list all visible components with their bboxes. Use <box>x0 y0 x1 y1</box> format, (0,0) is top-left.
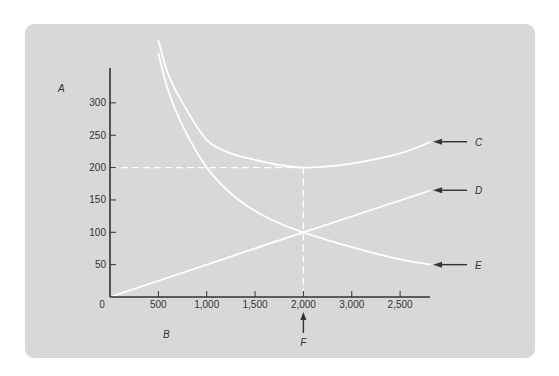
y-tick-label: 50 <box>95 259 107 270</box>
series-curves <box>110 40 431 297</box>
y-tick-label: 300 <box>89 97 106 108</box>
arrowhead-f <box>300 312 306 320</box>
label-d: D <box>475 185 482 196</box>
y-tick-label: 150 <box>89 194 106 205</box>
x-tick-label: 2,500 <box>388 299 413 310</box>
annotations: CDEF <box>300 137 483 348</box>
label-c: C <box>475 137 483 148</box>
curve-c <box>158 40 431 167</box>
label-e: E <box>475 260 482 271</box>
x-tick-label: 2,000 <box>291 299 316 310</box>
curve-e <box>158 53 431 265</box>
reference-lines <box>110 168 303 297</box>
curve-d <box>110 190 431 297</box>
chart: 501001502002503005001,0001,5002,0003,000… <box>0 0 559 376</box>
y-tick-label: 100 <box>89 227 106 238</box>
y-tick-label: 200 <box>89 162 106 173</box>
label-f: F <box>300 337 307 348</box>
x-tick-label: 3,000 <box>339 299 364 310</box>
arrowhead-e <box>433 262 442 268</box>
x-axis-label: B <box>163 329 170 340</box>
x-tick-label: 1,000 <box>194 299 219 310</box>
origin-label: 0 <box>99 299 105 310</box>
arrowhead-d <box>433 187 442 193</box>
x-tick-label: 1,500 <box>243 299 268 310</box>
x-tick-label: 500 <box>150 299 167 310</box>
y-tick-label: 250 <box>89 130 106 141</box>
arrowhead-c <box>433 139 442 145</box>
y-axis-label: A <box>57 83 65 94</box>
